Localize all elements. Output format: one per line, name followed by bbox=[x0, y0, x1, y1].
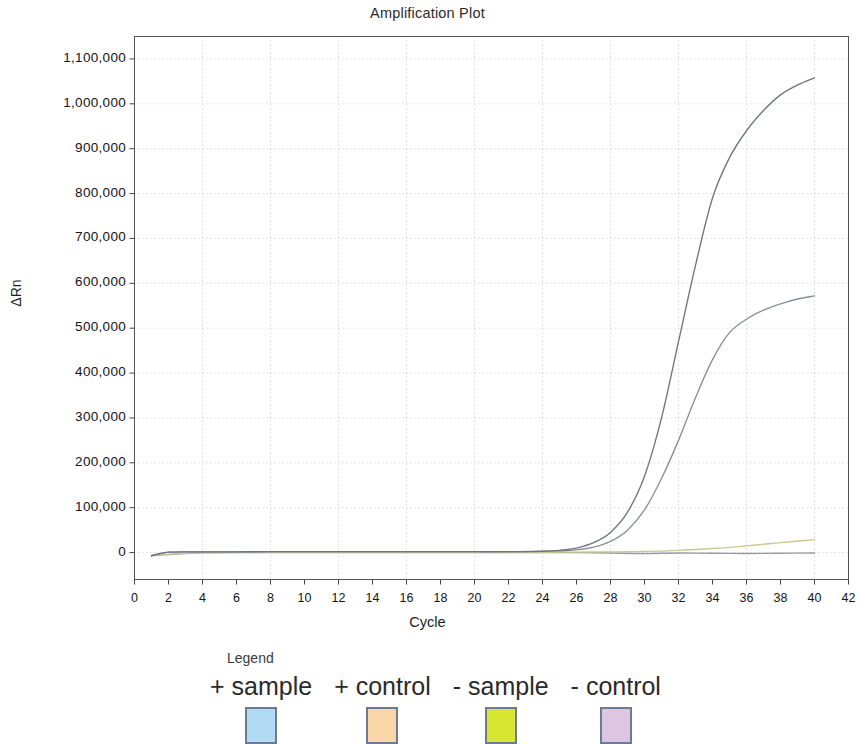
x-tick-label: 14 bbox=[358, 591, 388, 605]
legend-color-swatch bbox=[485, 707, 517, 744]
gridlines bbox=[135, 37, 849, 580]
legend-color-swatch bbox=[600, 707, 632, 744]
x-tick-label: 6 bbox=[222, 591, 252, 605]
x-tick-label: 28 bbox=[596, 591, 626, 605]
y-tick-label: 1,100,000 bbox=[14, 50, 126, 65]
legend-item-label: - sample bbox=[453, 671, 549, 701]
plot-canvas bbox=[0, 0, 855, 645]
x-tick-label: 0 bbox=[120, 591, 150, 605]
x-tick-label: 20 bbox=[460, 591, 490, 605]
x-tick-label: 36 bbox=[732, 591, 762, 605]
y-tick-label: 600,000 bbox=[14, 274, 126, 289]
legend-color-swatch bbox=[245, 707, 277, 744]
x-tick-label: 2 bbox=[154, 591, 184, 605]
data-series-layer bbox=[152, 78, 815, 556]
x-tick-label: 42 bbox=[834, 591, 860, 605]
x-tick-label: 22 bbox=[494, 591, 524, 605]
x-tick-label: 10 bbox=[290, 591, 320, 605]
y-tick-label: 400,000 bbox=[14, 364, 126, 379]
x-tick-label: 24 bbox=[528, 591, 558, 605]
x-tick-label: 4 bbox=[188, 591, 218, 605]
series-line bbox=[152, 78, 815, 556]
y-tick-label: 800,000 bbox=[14, 185, 126, 200]
y-tick-label: 200,000 bbox=[14, 454, 126, 469]
y-tick-label: 500,000 bbox=[14, 319, 126, 334]
legend-item-label: - control bbox=[571, 671, 661, 701]
legend-title: Legend bbox=[227, 650, 274, 666]
series-line bbox=[152, 296, 815, 556]
y-tick-label: 900,000 bbox=[14, 140, 126, 155]
legend-item[interactable]: - sample bbox=[453, 671, 549, 744]
legend-items: + sample+ control- sample- control bbox=[210, 671, 683, 744]
x-tick-label: 32 bbox=[664, 591, 694, 605]
x-tick-label: 40 bbox=[800, 591, 830, 605]
x-tick-label: 12 bbox=[324, 591, 354, 605]
x-tick-label: 34 bbox=[698, 591, 728, 605]
y-tick-label: 700,000 bbox=[14, 229, 126, 244]
x-tick-label: 30 bbox=[630, 591, 660, 605]
plot-frame bbox=[135, 37, 849, 580]
y-tick-label: 1,000,000 bbox=[14, 95, 126, 110]
y-tick-label: 0 bbox=[14, 544, 126, 559]
x-tick-label: 18 bbox=[426, 591, 456, 605]
legend-item[interactable]: + sample bbox=[210, 671, 312, 744]
legend: Legend + sample+ control- sample- contro… bbox=[0, 645, 855, 743]
axis-tick-marks bbox=[130, 59, 849, 585]
legend-item[interactable]: + control bbox=[334, 671, 431, 744]
legend-item[interactable]: - control bbox=[571, 671, 661, 744]
x-tick-label: 16 bbox=[392, 591, 422, 605]
legend-color-swatch bbox=[366, 707, 398, 744]
y-tick-label: 100,000 bbox=[14, 499, 126, 514]
legend-item-label: + sample bbox=[210, 671, 312, 701]
x-tick-label: 26 bbox=[562, 591, 592, 605]
x-tick-label: 38 bbox=[766, 591, 796, 605]
y-tick-label: 300,000 bbox=[14, 409, 126, 424]
x-tick-label: 8 bbox=[256, 591, 286, 605]
legend-item-label: + control bbox=[334, 671, 431, 701]
